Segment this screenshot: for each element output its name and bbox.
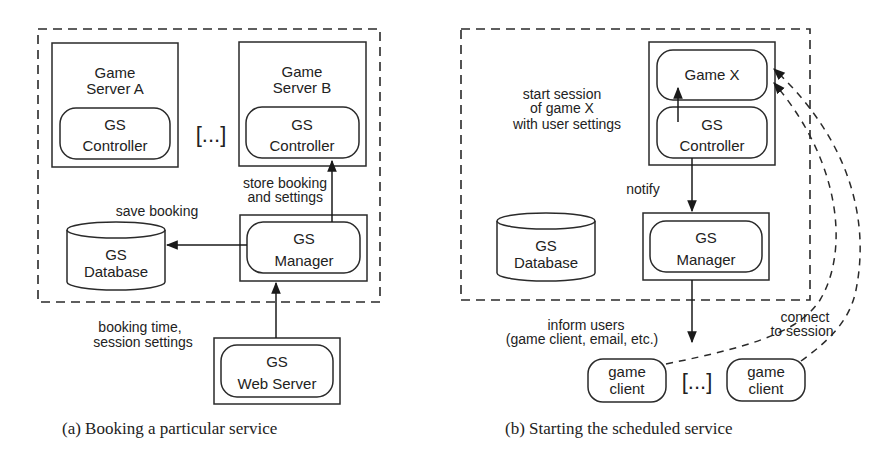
- caption-a: (a) Booking a particular service: [62, 419, 277, 438]
- svg-text:Web Server: Web Server: [238, 375, 317, 392]
- caption-b: (b) Starting the scheduled service: [505, 419, 733, 438]
- game-client-1: game client: [588, 359, 666, 402]
- gs-manager-a: GS Manager: [240, 215, 367, 281]
- architecture-diagram: Game Server A GS Controller [...] Game S…: [0, 0, 894, 472]
- svg-text:GS: GS: [535, 237, 557, 254]
- svg-text:save booking: save booking: [116, 203, 199, 219]
- svg-text:Game X: Game X: [684, 66, 739, 83]
- diagram-a: Game Server A GS Controller [...] Game S…: [38, 29, 380, 438]
- svg-text:Game: Game: [95, 64, 136, 81]
- svg-text:game: game: [608, 363, 646, 380]
- svg-text:Game: Game: [282, 63, 323, 80]
- svg-text:client: client: [748, 380, 784, 397]
- svg-text:Controller: Controller: [82, 137, 147, 154]
- game-client-2: game client: [727, 359, 805, 401]
- gs-database-a: GS Database: [67, 222, 165, 290]
- gs-database-b: GS Database: [497, 213, 595, 281]
- svg-text:GS: GS: [291, 116, 313, 133]
- svg-text:(game client, email, etc.): (game client, email, etc.): [506, 331, 659, 347]
- svg-text:GS: GS: [701, 116, 723, 133]
- diagram-b: Game X GS Controller start session of ga…: [461, 29, 860, 438]
- svg-text:of game X: of game X: [530, 100, 594, 116]
- svg-text:Manager: Manager: [676, 251, 735, 268]
- gs-web-server: GS Web Server: [214, 338, 340, 404]
- svg-text:GS: GS: [105, 246, 127, 263]
- gs-manager-b: GS Manager: [643, 213, 769, 280]
- svg-text:Database: Database: [514, 254, 578, 271]
- svg-text:Manager: Manager: [274, 252, 333, 269]
- svg-text:Controller: Controller: [269, 137, 334, 154]
- servers-ellipsis: [...]: [196, 122, 227, 147]
- svg-text:Database: Database: [84, 263, 148, 280]
- game-server-x: Game X GS Controller: [649, 42, 775, 165]
- svg-text:Server B: Server B: [273, 79, 331, 96]
- svg-text:and settings: and settings: [248, 189, 324, 205]
- svg-text:session settings: session settings: [93, 334, 193, 350]
- svg-text:GS: GS: [104, 116, 126, 133]
- svg-text:notify: notify: [626, 181, 659, 197]
- svg-text:GS: GS: [266, 353, 288, 370]
- svg-text:with user settings: with user settings: [512, 116, 621, 132]
- svg-text:Server A: Server A: [86, 80, 144, 97]
- svg-text:GS: GS: [293, 230, 315, 247]
- svg-text:client: client: [609, 380, 645, 397]
- svg-text:game: game: [747, 363, 785, 380]
- svg-text:booking time,: booking time,: [98, 319, 181, 335]
- svg-text:Controller: Controller: [679, 137, 744, 154]
- svg-text:to session: to session: [770, 323, 833, 339]
- game-server-a: Game Server A GS Controller: [52, 43, 178, 167]
- clients-ellipsis: [...]: [682, 369, 713, 394]
- svg-text:GS: GS: [695, 229, 717, 246]
- game-server-b: Game Server B GS Controller: [239, 42, 366, 166]
